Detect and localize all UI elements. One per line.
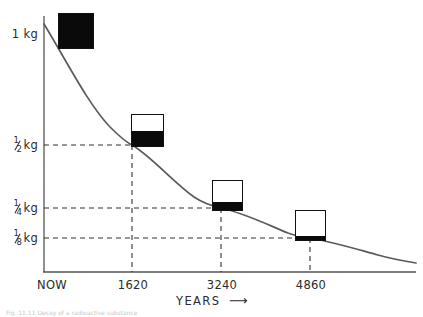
y-tick-label-half-kg: 1 2 kg xyxy=(2,138,38,152)
swatch-fill xyxy=(132,131,163,147)
swatch-quarter-kg xyxy=(212,180,243,211)
fraction-one-quarter: 1 4 xyxy=(13,202,22,215)
figure-caption: Fig. 11.11 Decay of a radioactive substa… xyxy=(6,309,138,316)
swatch-half-kg xyxy=(131,114,164,147)
x-tick-label-now: NOW xyxy=(37,278,67,292)
x-tick-label-3240: 3240 xyxy=(207,278,237,292)
x-tick-label-1620: 1620 xyxy=(118,278,148,292)
decay-figure: 1 kg 1 2 kg 1 4 kg 1 8 kg NOW 1620 3240 … xyxy=(0,0,423,317)
swatch-fill xyxy=(296,236,325,240)
x-tick-label-4860: 4860 xyxy=(296,278,326,292)
y-tick-label-eighth-kg: 1 8 kg xyxy=(2,231,38,245)
x-axis-title: YEARS xyxy=(176,294,220,308)
decay-curve xyxy=(44,24,416,263)
swatch-1-kg xyxy=(58,13,94,49)
fraction-one-half: 1 2 xyxy=(13,139,22,152)
swatch-eighth-kg xyxy=(295,210,326,241)
x-axis-arrow-icon: ⟶ xyxy=(229,293,249,308)
swatch-fill xyxy=(59,14,93,48)
fraction-one-eighth: 1 8 xyxy=(13,232,22,245)
y-tick-label-1kg: 1 kg xyxy=(6,27,38,41)
y-tick-label-quarter-kg: 1 4 kg xyxy=(2,201,38,215)
swatch-fill xyxy=(213,202,242,210)
